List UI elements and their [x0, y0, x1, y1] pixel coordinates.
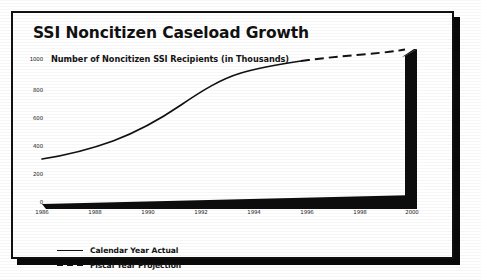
x-tick-label-1994: 1994 [241, 209, 267, 215]
y-tick-label-800: 800 [21, 87, 43, 93]
legend-item-actual: Calendar Year Actual [57, 244, 181, 256]
solid-line-icon [57, 246, 83, 254]
page-title: SSI Noncitizen Caseload Growth [33, 24, 309, 42]
x-tick-label-1986: 1986 [29, 209, 55, 215]
y-tick-label-200: 200 [21, 171, 43, 177]
legend: Calendar Year Actual Fiscal Year Project… [57, 244, 181, 274]
chart-frame: SSI Noncitizen Caseload Growth Number of… [11, 11, 454, 259]
x-tick-label-1992: 1992 [188, 209, 214, 215]
chart-page: SSI Noncitizen Caseload Growth Number of… [0, 0, 481, 280]
x-tick-label-1990: 1990 [135, 209, 161, 215]
axis-caption: Number of Noncitizen SSI Recipients (in … [51, 54, 289, 64]
right-wall [405, 49, 417, 209]
series-line-projection [301, 50, 405, 62]
y-tick-label-0: 0 [21, 199, 43, 205]
legend-label-projection: Fiscal Year Projection [90, 261, 181, 270]
plot-area [13, 13, 456, 261]
legend-label-actual: Calendar Year Actual [90, 246, 178, 255]
y-tick-label-1000: 1000 [21, 56, 43, 62]
right-wall-top-cap [402, 49, 417, 57]
series-line-actual [42, 61, 301, 159]
legend-item-projection: Fiscal Year Projection [57, 259, 181, 271]
y-tick-label-400: 400 [21, 143, 43, 149]
x-tick-label-1996: 1996 [294, 209, 320, 215]
x-tick-label-1988: 1988 [82, 209, 108, 215]
y-tick-label-600: 600 [21, 115, 43, 121]
baseline-wedge [42, 195, 417, 209]
dashed-line-icon [57, 261, 83, 269]
x-tick-label-2000: 2000 [399, 209, 425, 215]
x-tick-label-1998: 1998 [347, 209, 373, 215]
